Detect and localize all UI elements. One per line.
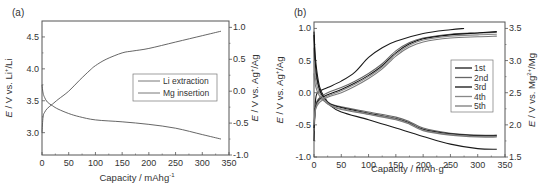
panel-b-x-axis-title: Capacity / mAh·g-1 (371, 163, 450, 174)
legend-label-2nd: 2nd (474, 73, 488, 83)
panel-a-x-tick-label: 200 (141, 158, 156, 168)
figure: (a) 050100150200250300350 3.03.54.04.5 -… (0, 0, 543, 194)
panel-a-xlabel: Capacity / mAhg (99, 172, 169, 183)
panel-a-y-tick-label-left: 3.5 (26, 96, 39, 106)
panel-b-y-tick-label-left: -0.5 (295, 120, 311, 130)
panel-b-y-tick-label-left: -1.0 (295, 152, 311, 162)
panel-a-y-tick-label-left: 3.0 (26, 128, 39, 138)
panel-b-y-tick-label-left: 0.0 (298, 88, 311, 98)
legend-label-3rd: 3rd (474, 82, 487, 92)
panel-b-y-tick-label-left: 0.5 (298, 56, 311, 66)
panel-b-xlabel: Capacity / mAh·g (371, 163, 444, 174)
ylabel-rest: / V vs. Li (3, 72, 14, 111)
series-1st-charge (314, 28, 464, 140)
panel-a-y-tick-label-left: 4.5 (26, 32, 39, 42)
panel-a-xlabel-sup: -1 (169, 172, 175, 178)
legend-label-mg-insertion: Mg insertion (163, 88, 210, 98)
legend-label-1st: 1st (474, 63, 486, 73)
panel-a-legend: Li extraction Mg insertion (133, 74, 217, 101)
panel-a-y-tick-label-right: 0.0 (233, 86, 246, 96)
panel-a-x-tick-label: 300 (195, 158, 210, 168)
panel-b-x-tick-label: 50 (336, 160, 346, 170)
ylabel-end: /Ag (249, 55, 260, 69)
legend-label-li-extraction: Li extraction (163, 76, 209, 86)
ylabel-rest: / V vs. Mg (526, 76, 537, 121)
panel-b-xlabel-sup: -1 (444, 163, 450, 169)
panel-b-y-tick-label-right: 2.0 (509, 120, 522, 130)
panel-b-y-tick-label-right: 3.0 (509, 56, 522, 66)
ylabel-end: /Li (3, 59, 14, 69)
panel-b-label: (b) (294, 7, 306, 18)
panel-a-x-tick-label: 250 (168, 158, 183, 168)
panel-a-y-tick-label-right: -0.5 (233, 118, 249, 128)
panel-a-y-axis-title-right: E / V vs. Ag+/Ag (249, 55, 260, 122)
panel-a-x-ticks: 050100150200250300350 (39, 152, 236, 168)
panel-b-x-tick-label: 0 (311, 160, 316, 170)
ylabel-end: /Mg (526, 53, 537, 69)
ylabel-rest: / V vs. Ag (249, 72, 260, 115)
panel-b: (b) 050100150200250300350 -1.0-0.50.00.5… (274, 7, 537, 174)
panel-a-x-tick-label: 50 (64, 158, 74, 168)
panel-a-label: (a) (12, 7, 24, 18)
panel-b-x-tick-label: 300 (470, 160, 485, 170)
panel-a-y-tick-label-right: 0.5 (233, 54, 246, 64)
panel-b-y-tick-label-right: 2.5 (509, 88, 522, 98)
legend-label-5th: 5th (474, 101, 486, 111)
panel-a-x-tick-label: 100 (88, 158, 103, 168)
panel-a-y-axis-title-left: E / V vs. Li+/Li (3, 59, 14, 118)
panel-a-y-tick-label-right: -1.0 (233, 150, 249, 160)
panel-a-x-axis-title: Capacity / mAhg-1 (99, 172, 175, 183)
panel-b-y-axis-title-left: E / V vs. Ag+/Ag (274, 57, 285, 124)
panel-a-y-ticks-right: -1.0-0.50.00.51.0 (229, 22, 249, 160)
ylabel-end: /Ag (274, 57, 285, 71)
panel-b-y-tick-label-right: 3.5 (509, 23, 522, 33)
panel-b-legend: 1st2nd3rd4th5th (451, 60, 493, 112)
panel-a-y-tick-label-right: 1.0 (233, 22, 246, 32)
panel-a-y-tick-label-left: 4.0 (26, 64, 39, 74)
panel-b-y-tick-label-left: 1.0 (298, 23, 311, 33)
panel-a-x-tick-label: 0 (39, 158, 44, 168)
panel-b-y-ticks-right: 1.52.02.53.03.5 (505, 23, 522, 162)
panel-a: (a) 050100150200250300350 3.03.54.04.5 -… (3, 7, 260, 183)
legend-label-4th: 4th (474, 92, 486, 102)
panel-b-y-tick-label-right: 1.5 (509, 152, 522, 162)
ylabel-rest: / V vs. Ag (274, 74, 285, 117)
panel-b-y-axis-title-right: E / V vs. Mg2+/Mg (526, 53, 537, 127)
panel-a-x-tick-label: 150 (115, 158, 130, 168)
